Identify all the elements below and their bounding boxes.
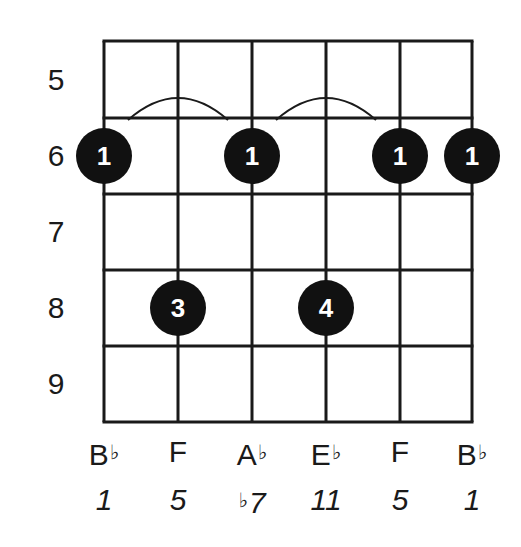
flat-accidental: ♭ [478, 441, 487, 463]
note-name: F [143, 437, 213, 467]
fret-number: 7 [36, 217, 76, 247]
finger-dot: 1 [372, 128, 428, 184]
chord-diagram: 56789 111134 B♭FA♭E♭FB♭ 15♭71151 [0, 0, 521, 547]
note-name: B♭ [437, 437, 507, 470]
interval-label: 5 [365, 485, 435, 515]
finger-dot: 1 [76, 128, 132, 184]
interval-label: 11 [291, 485, 361, 515]
fret-number: 5 [36, 65, 76, 95]
fret-number: 8 [36, 293, 76, 323]
finger-dot: 1 [224, 128, 280, 184]
fret-number: 9 [36, 369, 76, 399]
flat-accidental: ♭ [332, 441, 341, 463]
note-name: E♭ [291, 437, 361, 470]
note-name: B♭ [69, 437, 139, 470]
finger-dot: 3 [150, 280, 206, 336]
note-name: A♭ [217, 437, 287, 470]
interval-label: ♭7 [217, 485, 287, 518]
flat-accidental: ♭ [258, 441, 267, 463]
fret-number: 6 [36, 141, 76, 171]
flat-accidental: ♭ [110, 441, 119, 463]
interval-label: 5 [143, 485, 213, 515]
note-name: F [365, 437, 435, 467]
interval-label: 1 [437, 485, 507, 515]
finger-dot: 1 [444, 128, 500, 184]
finger-dot: 4 [298, 280, 354, 336]
interval-label: 1 [69, 485, 139, 515]
flat-accidental: ♭ [238, 489, 247, 511]
